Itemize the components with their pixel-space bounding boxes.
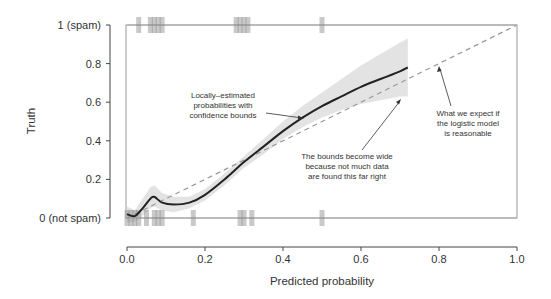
svg-text:confidence bounds: confidence bounds <box>189 111 256 120</box>
rug-not-spam <box>125 210 518 226</box>
rug-spam <box>127 17 517 33</box>
svg-text:What we expect if: What we expect if <box>436 109 500 118</box>
svg-text:The bounds become wide: The bounds become wide <box>301 152 393 161</box>
arrow <box>362 101 400 150</box>
rug-mark <box>245 17 250 33</box>
y-tick-label: 0.4 <box>86 135 101 147</box>
annotation-local-estimate: Locally–estimated probabilities with con… <box>189 91 304 120</box>
rug-mark <box>320 210 325 226</box>
y-tick-label: 0 (not spam) <box>39 212 101 224</box>
arrow <box>440 69 451 106</box>
x-tick-label: 0.8 <box>431 253 446 265</box>
svg-text:Locally–estimated: Locally–estimated <box>191 91 255 100</box>
y-tick-label: 0.8 <box>86 58 101 70</box>
rug-mark <box>136 17 141 33</box>
rug-mark <box>191 210 196 226</box>
logistic-calibration-chart: 1 (spam) 0.8 0.6 0.4 0.2 0 (not spam) Tr… <box>0 0 551 299</box>
rug-mark <box>242 210 247 226</box>
x-axis-title: Predicted probability <box>270 275 374 287</box>
arrowhead-icon <box>396 99 401 105</box>
svg-text:are found this far right: are found this far right <box>308 172 387 181</box>
x-tick-label: 0.2 <box>197 253 212 265</box>
x-axis: 0.0 0.2 0.4 0.6 0.8 1.0 Predicted probab… <box>119 247 524 287</box>
svg-text:because not much data: because not much data <box>305 162 389 171</box>
rug-mark <box>144 210 149 226</box>
x-tick-label: 0.0 <box>119 253 134 265</box>
y-axis: 1 (spam) 0.8 0.6 0.4 0.2 0 (not spam) Tr… <box>25 19 110 224</box>
svg-text:the logistic model: the logistic model <box>437 119 499 128</box>
svg-text:probabilities with: probabilities with <box>193 101 252 110</box>
rug-mark <box>160 210 165 226</box>
y-tick-label: 1 (spam) <box>58 19 101 31</box>
rug-mark <box>160 17 165 33</box>
rug-mark <box>249 210 254 226</box>
annotation-expected: What we expect if the logistic model is … <box>436 66 500 138</box>
y-tick-label: 0.2 <box>86 173 101 185</box>
y-tick-label: 0.6 <box>86 96 101 108</box>
arrowhead-icon <box>437 66 442 72</box>
x-tick-label: 0.6 <box>353 253 368 265</box>
svg-text:is reasonable: is reasonable <box>444 129 492 138</box>
x-tick-label: 0.4 <box>275 253 290 265</box>
y-axis-title: Truth <box>25 108 37 134</box>
confidence-band <box>127 39 408 222</box>
rug-mark <box>320 17 325 33</box>
x-tick-label: 1.0 <box>509 253 524 265</box>
